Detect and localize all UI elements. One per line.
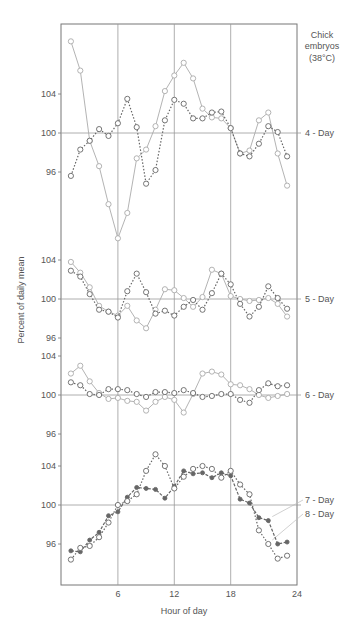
data-point xyxy=(275,384,280,389)
data-point xyxy=(134,271,139,276)
data-point xyxy=(116,510,120,514)
data-point xyxy=(200,371,205,376)
data-point xyxy=(266,284,271,289)
data-point xyxy=(144,468,149,473)
data-point xyxy=(135,485,139,489)
data-point xyxy=(228,391,233,396)
data-point xyxy=(172,486,177,491)
data-point xyxy=(125,388,130,393)
data-point xyxy=(238,383,243,388)
y-tick-label: 100 xyxy=(41,500,56,510)
data-point xyxy=(256,388,261,393)
data-point xyxy=(266,541,271,546)
data-point xyxy=(285,383,290,388)
x-axis-title: Hour of day xyxy=(161,606,208,616)
data-point xyxy=(134,391,139,396)
data-point xyxy=(78,274,83,279)
y-tick-label: 96 xyxy=(46,167,56,177)
data-point xyxy=(162,463,167,468)
data-point xyxy=(191,116,196,121)
data-point xyxy=(134,125,139,130)
data-point xyxy=(200,294,205,299)
data-point xyxy=(68,380,73,385)
data-point xyxy=(200,307,205,312)
series-line xyxy=(71,262,287,328)
data-point xyxy=(115,236,120,241)
y-tick-label: 96 xyxy=(46,333,56,343)
leader-line xyxy=(272,500,303,517)
data-point xyxy=(238,497,242,501)
data-point xyxy=(87,292,92,297)
data-point xyxy=(247,154,252,159)
data-point xyxy=(115,387,120,392)
data-point xyxy=(144,326,149,331)
data-point xyxy=(162,394,167,399)
data-point xyxy=(68,268,73,273)
data-point xyxy=(275,393,280,398)
data-point xyxy=(191,472,195,476)
data-point xyxy=(69,549,73,553)
data-point xyxy=(115,395,120,400)
chart-canvas: Chick embryos (38°C) Hour of day Percent… xyxy=(0,0,351,635)
data-point xyxy=(181,304,186,309)
data-point xyxy=(247,314,252,319)
data-point xyxy=(106,309,111,314)
data-point xyxy=(153,167,158,172)
data-point xyxy=(200,463,205,468)
data-point xyxy=(144,181,149,186)
data-point xyxy=(276,542,280,546)
data-point xyxy=(78,147,83,152)
data-point xyxy=(144,394,149,399)
y-tick-label: 104 xyxy=(41,351,56,361)
data-point xyxy=(172,390,177,395)
data-point xyxy=(238,482,243,487)
data-point xyxy=(219,475,224,480)
data-point xyxy=(191,304,196,309)
data-point xyxy=(68,371,73,376)
data-point xyxy=(87,285,92,290)
data-point xyxy=(191,466,196,471)
data-point xyxy=(275,129,280,134)
data-point xyxy=(144,486,148,490)
data-point xyxy=(256,528,261,533)
data-point xyxy=(228,293,233,298)
data-point xyxy=(285,540,289,544)
data-point xyxy=(153,389,158,394)
data-point xyxy=(68,557,73,562)
data-point xyxy=(285,553,290,558)
data-point xyxy=(209,110,214,115)
series-line xyxy=(71,41,287,238)
data-point xyxy=(210,476,214,480)
y-tick-label: 100 xyxy=(41,128,56,138)
data-point xyxy=(238,301,243,306)
data-point xyxy=(201,471,205,475)
data-point xyxy=(134,492,139,497)
data-point xyxy=(209,393,214,398)
data-point xyxy=(144,147,149,152)
data-point xyxy=(106,396,111,401)
data-point xyxy=(162,88,167,93)
data-point xyxy=(181,388,186,393)
data-point xyxy=(209,115,214,120)
data-point xyxy=(219,116,224,121)
data-point xyxy=(106,387,111,392)
data-point xyxy=(200,116,205,121)
data-point xyxy=(106,133,111,138)
data-point xyxy=(266,519,270,523)
data-point xyxy=(219,271,224,276)
data-point xyxy=(285,391,290,396)
data-point xyxy=(134,318,139,323)
data-point xyxy=(229,474,233,478)
data-point xyxy=(219,372,224,377)
data-point xyxy=(154,487,158,491)
data-series xyxy=(68,39,289,562)
corner-label-line-2: embryos xyxy=(305,41,340,51)
panel-label: 4 - Day xyxy=(305,128,335,138)
corner-label-line-3: (38°C) xyxy=(309,53,335,63)
data-point xyxy=(266,295,271,300)
data-point xyxy=(172,73,177,78)
leader-line xyxy=(272,514,303,540)
y-tick-label: 104 xyxy=(41,461,56,471)
data-point xyxy=(106,202,111,207)
data-point xyxy=(275,151,280,156)
